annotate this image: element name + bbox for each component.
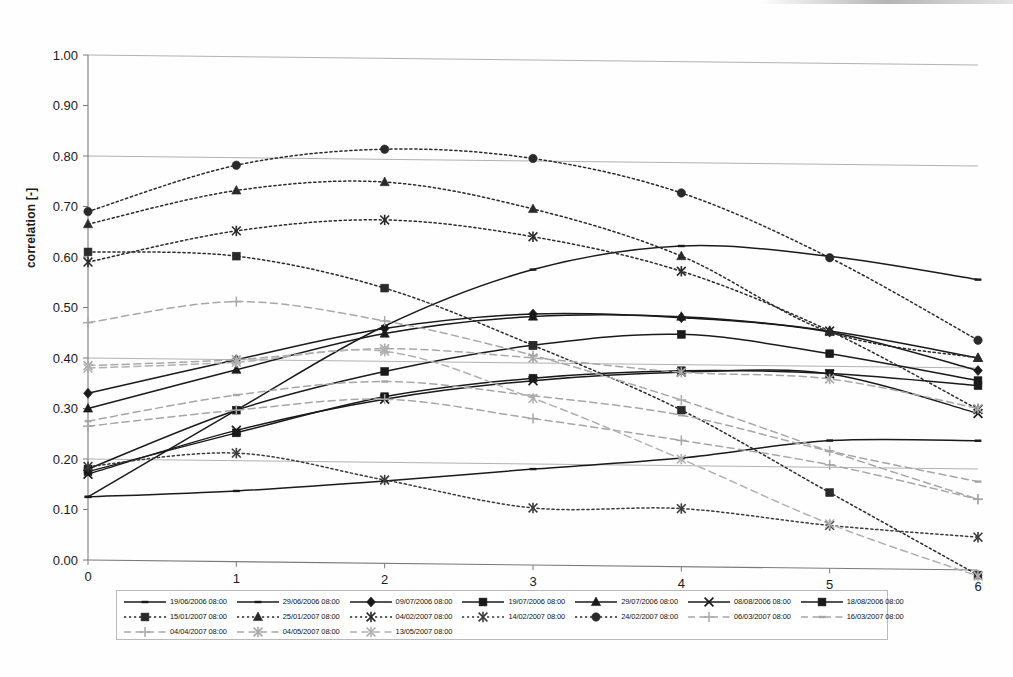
legend-item[interactable]: 29/06/2006 08:00	[236, 596, 340, 608]
data-point-marker-dash	[818, 615, 825, 617]
legend-item[interactable]: 08/08/2006 08:00	[687, 596, 791, 608]
legend-item[interactable]: 14/02/2007 08:00	[461, 611, 565, 623]
data-point-marker-square	[84, 248, 92, 256]
data-point-marker-square	[826, 489, 834, 497]
data-point-marker-square	[529, 341, 537, 349]
x-tick-label: 1	[233, 571, 240, 586]
y-axis-label: correlation [-]	[24, 248, 38, 268]
y-tick-label: 0.10	[53, 502, 78, 517]
data-point-marker-plus	[676, 435, 686, 445]
data-point-marker-dash	[233, 394, 240, 396]
legend-item[interactable]: 25/01/2007 08:00	[236, 611, 340, 623]
legend-item[interactable]: 18/08/2006 08:00	[800, 596, 904, 608]
data-point-marker-dash	[254, 600, 261, 602]
legend-item-label: 09/07/2006 08:00	[396, 597, 453, 606]
data-point-marker-dash	[826, 439, 833, 441]
legend-line-sample	[236, 626, 280, 638]
data-point-marker-asterisk	[84, 257, 93, 267]
data-point-marker-asterisk	[529, 393, 538, 403]
data-point-marker-dash	[381, 380, 388, 382]
data-point-marker-plus	[140, 627, 150, 637]
data-point-marker-plus	[528, 414, 538, 424]
x-tick-label: 4	[678, 576, 685, 591]
data-point-marker-square	[381, 284, 389, 292]
legend-item[interactable]: 13/05/2007 08:00	[349, 626, 453, 638]
data-point-marker-circle	[380, 145, 388, 153]
data-point-marker-circle	[825, 254, 833, 262]
data-point-marker-square	[479, 598, 487, 606]
x-tick-label: 2	[381, 572, 388, 587]
legend-item[interactable]: 15/01/2007 08:00	[123, 611, 227, 623]
legend-item[interactable]: 16/03/2007 08:00	[800, 611, 904, 623]
y-tick-label: 0.90	[53, 98, 78, 113]
data-point-marker-triangle	[83, 219, 92, 228]
data-point-marker-square	[232, 429, 240, 437]
data-point-marker-plus	[704, 612, 714, 622]
legend-line-sample	[800, 596, 844, 608]
y-tick-label: 0.70	[53, 199, 78, 214]
data-point-marker-dash	[85, 496, 92, 498]
legend-item-label: 15/01/2007 08:00	[170, 612, 227, 621]
series-12	[83, 394, 983, 504]
legend-item[interactable]: 24/02/2007 08:00	[574, 611, 678, 623]
chart-legend: 19/06/2006 08:0029/06/2006 08:0009/07/20…	[116, 590, 888, 640]
legend-item[interactable]: 09/07/2006 08:00	[349, 596, 453, 608]
data-point-marker-square	[141, 613, 149, 621]
data-point-marker-dash	[530, 268, 537, 270]
data-point-marker-diamond	[974, 366, 983, 376]
data-point-marker-triangle	[253, 612, 262, 621]
legend-line-sample	[123, 626, 167, 638]
legend-line-sample	[687, 611, 731, 623]
data-point-marker-triangle	[677, 251, 686, 260]
y-tick-label: 0.60	[53, 250, 78, 265]
legend-item-label: 24/02/2007 08:00	[621, 612, 678, 621]
legend-row-2: 04/04/2007 08:0004/05/2007 08:0013/05/20…	[123, 624, 883, 639]
legend-item[interactable]: 04/05/2007 08:00	[236, 626, 340, 638]
data-point-marker-plus	[825, 446, 835, 456]
series-line	[88, 252, 978, 575]
legend-item-label: 29/06/2006 08:00	[283, 597, 340, 606]
data-point-marker-square	[677, 330, 685, 338]
data-point-marker-plus	[676, 395, 686, 405]
data-point-marker-diamond	[84, 388, 93, 398]
legend-item[interactable]: 04/04/2007 08:00	[123, 626, 227, 638]
legend-item-label: 04/05/2007 08:00	[283, 627, 340, 636]
y-tick-label: 0.40	[53, 351, 78, 366]
data-point-marker-asterisk	[529, 503, 538, 513]
data-point-marker-circle	[592, 612, 600, 620]
legend-item[interactable]: 19/07/2006 08:00	[461, 596, 565, 608]
data-point-marker-dash	[678, 414, 685, 416]
series-line	[88, 350, 978, 576]
legend-row-1: 15/01/2007 08:0025/01/2007 08:0004/02/20…	[123, 609, 883, 624]
data-point-marker-dash	[530, 468, 537, 470]
data-point-marker-dash	[975, 480, 982, 482]
data-point-marker-plus	[825, 460, 835, 470]
data-point-marker-asterisk	[366, 611, 375, 621]
legend-item[interactable]: 04/02/2007 08:00	[349, 611, 453, 623]
data-point-marker-circle	[677, 189, 685, 197]
legend-item-label: 18/08/2006 08:00	[847, 597, 904, 606]
legend-item-label: 04/02/2007 08:00	[396, 612, 453, 621]
series-10	[84, 448, 983, 542]
y-tick-label: 0.30	[53, 401, 78, 416]
x-tick-label: 3	[529, 574, 536, 589]
data-point-marker-asterisk	[825, 519, 834, 529]
legend-item[interactable]: 06/03/2007 08:00	[687, 611, 791, 623]
legend-item[interactable]: 19/06/2006 08:00	[123, 596, 227, 608]
legend-item[interactable]: 29/07/2006 08:00	[574, 596, 678, 608]
legend-line-sample	[461, 596, 505, 608]
legend-item-label: 16/03/2007 08:00	[847, 612, 904, 621]
data-point-marker-square	[974, 382, 982, 390]
data-point-marker-square	[677, 406, 685, 414]
data-point-marker-circle	[84, 207, 92, 215]
data-point-marker-circle	[974, 336, 982, 344]
data-point-marker-dash	[678, 245, 685, 247]
y-tick-label: 0.80	[53, 149, 78, 164]
data-point-marker-plus	[231, 297, 241, 307]
series-line	[88, 453, 978, 537]
legend-line-sample	[123, 596, 167, 608]
legend-item-label: 04/04/2007 08:00	[170, 627, 227, 636]
legend-item-label: 06/03/2007 08:00	[734, 612, 791, 621]
legend-line-sample	[800, 611, 844, 623]
data-point-marker-asterisk	[677, 266, 686, 276]
